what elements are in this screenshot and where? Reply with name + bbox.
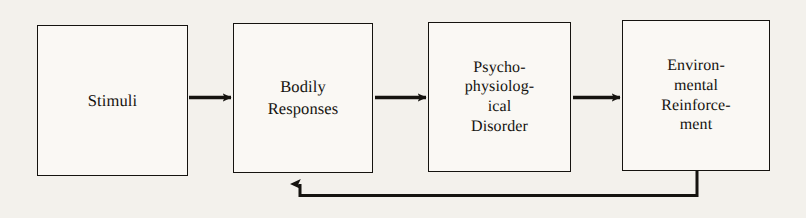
node-environmental-reinforcement: Environ- mental Reinforce- ment [622,20,770,171]
node-bodily-responses: Bodily Responses [233,23,373,173]
flow-diagram: Stimuli Bodily Responses Psycho- physiol… [0,0,806,218]
node-stimuli-label: Stimuli [88,90,137,112]
node-environmental-reinforcement-label: Environ- mental Reinforce- ment [661,56,730,134]
node-bodily-responses-label: Bodily Responses [268,76,339,120]
node-psychophysiological-disorder-label: Psycho- physiolog- ical Disorder [465,58,534,136]
node-psychophysiological-disorder: Psycho- physiolog- ical Disorder [428,22,571,172]
node-stimuli: Stimuli [37,25,188,176]
edge-reinforcement-feedback-to-bodily [300,171,697,196]
